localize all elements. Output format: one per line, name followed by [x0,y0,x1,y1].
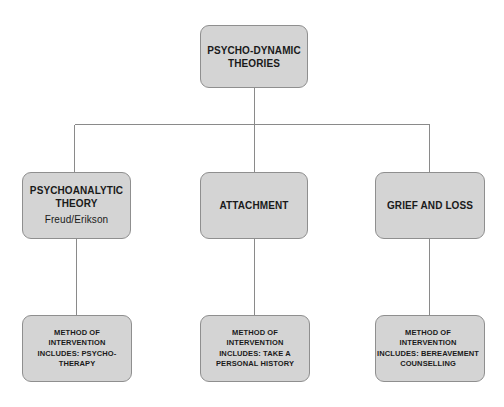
node-branch-grief-and-loss: GRIEF AND LOSS [375,172,485,239]
node-method-personal-history: METHOD OF INTERVENTION INCLUDES: TAKE A … [200,315,310,382]
node-branch-left-content: PSYCHOANALYTIC THEORY Freud/Erikson [30,184,123,227]
node-method-mid-label: METHOD OF INTERVENTION INCLUDES: TAKE A … [201,328,309,370]
node-method-left-label: METHOD OF INTERVENTION INCLUDES: PSYCHO-… [23,328,131,370]
node-method-bereavement-counselling: METHOD OF INTERVENTION INCLUDES: BEREAVE… [375,315,485,382]
node-method-psychotherapy: METHOD OF INTERVENTION INCLUDES: PSYCHO-… [22,315,132,382]
node-branch-right-label: GRIEF AND LOSS [376,199,484,212]
node-branch-mid-label: ATTACHMENT [201,199,307,212]
node-branch-left-sublabel: Freud/Erikson [30,213,123,227]
node-root-label: PSYCHO-DYNAMIC THEORIES [201,44,307,70]
node-branch-left-label: PSYCHOANALYTIC THEORY [30,184,123,210]
node-branch-attachment: ATTACHMENT [200,172,308,239]
node-root-psycho-dynamic-theories: PSYCHO-DYNAMIC THEORIES [200,25,308,88]
node-branch-psychoanalytic-theory: PSYCHOANALYTIC THEORY Freud/Erikson [22,172,131,239]
psycho-dynamic-theories-diagram: PSYCHO-DYNAMIC THEORIES PSYCHOANALYTIC T… [0,0,504,407]
node-method-right-label: METHOD OF INTERVENTION INCLUDES: BEREAVE… [372,328,484,370]
